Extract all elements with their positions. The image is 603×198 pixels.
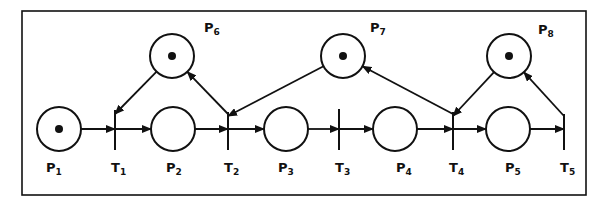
place-p3 — [264, 107, 308, 151]
place-p4 — [373, 107, 417, 151]
arc-p6-to-t1 — [115, 72, 157, 114]
place-circle — [264, 107, 308, 151]
arc-t2-to-p6 — [187, 72, 228, 114]
place-circle — [151, 107, 195, 151]
place-label-p3: P3 — [278, 160, 294, 177]
token-icon — [339, 52, 347, 60]
place-circle — [486, 107, 530, 151]
transition-label-t1: T1 — [111, 160, 126, 177]
petri-net-diagram: P1P2P3P4P5P6P7P8T1T2T3T4T5 — [0, 0, 603, 198]
transition-label-t3: T3 — [335, 160, 350, 177]
place-p1 — [37, 107, 81, 151]
arc-t4-to-p7 — [362, 66, 453, 114]
arc-p8-to-t4 — [453, 72, 494, 116]
transition-label-t2: T2 — [224, 160, 239, 177]
place-label-p4: P4 — [396, 160, 412, 177]
place-label-p6: P6 — [204, 20, 220, 37]
transition-label-t4: T4 — [449, 160, 464, 177]
place-label-p1: P1 — [46, 160, 62, 177]
token-icon — [505, 52, 513, 60]
token-icon — [168, 52, 176, 60]
place-p5 — [486, 107, 530, 151]
place-p8 — [487, 34, 531, 78]
places-layer — [37, 34, 531, 151]
place-p7 — [321, 34, 365, 78]
arc-t5-to-p8 — [524, 72, 564, 116]
transition-label-t5: T5 — [560, 160, 575, 177]
place-label-p8: P8 — [538, 22, 554, 39]
place-label-p7: P7 — [370, 20, 386, 37]
place-label-p5: P5 — [505, 160, 521, 177]
token-icon — [55, 125, 63, 133]
place-p6 — [150, 34, 194, 78]
place-circle — [373, 107, 417, 151]
place-label-p2: P2 — [166, 160, 182, 177]
place-p2 — [151, 107, 195, 151]
